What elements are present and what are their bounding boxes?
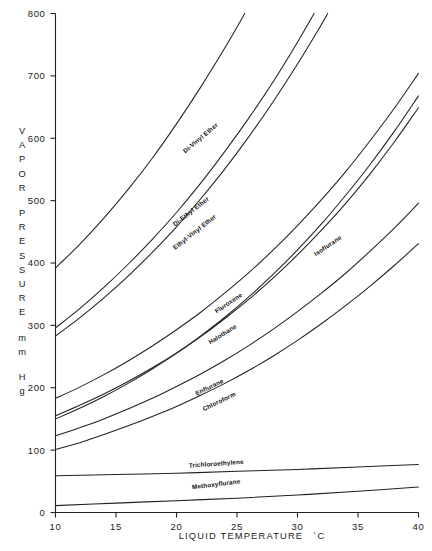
y-axis-title-char: m [18, 333, 26, 343]
y-tick-label: 700 [28, 70, 46, 81]
vapor-pressure-chart: 0100200300400500600700800 10152025303540… [0, 0, 432, 551]
x-tick-label: 25 [231, 521, 243, 532]
x-tick-label: 15 [110, 521, 122, 532]
y-axis-title-char: R [19, 293, 26, 303]
y-axis-title-char: P [19, 208, 25, 218]
y-axis-title-char: m [18, 347, 26, 357]
y-tick-label: 100 [28, 445, 46, 456]
y-tick-label: 600 [28, 133, 46, 144]
x-tick-label: 30 [292, 521, 304, 532]
y-tick-label: 200 [28, 382, 46, 393]
y-tick-label: 0 [40, 507, 46, 518]
x-tick-label: 10 [50, 521, 62, 532]
chart-background [0, 0, 432, 551]
y-axis-title-char: S [19, 265, 25, 275]
y-axis-title-char: R [19, 183, 26, 193]
y-axis-title-char: R [19, 222, 26, 232]
y-axis-title-char: A [19, 140, 26, 150]
y-axis-title-char: P [19, 154, 25, 164]
x-tick-label: 35 [352, 521, 364, 532]
x-axis-title-main: LIQUID TEMPERATURE [179, 531, 304, 541]
y-tick-label: 400 [28, 257, 46, 268]
chart-canvas: 0100200300400500600700800 10152025303540… [0, 0, 432, 551]
y-axis-title-char: U [19, 279, 26, 289]
y-tick-label: 300 [28, 320, 46, 331]
x-tick-label: 20 [171, 521, 183, 532]
degree-symbol: ° [313, 531, 317, 537]
y-tick-label: 800 [28, 8, 46, 19]
y-axis-title-char: H [19, 372, 26, 382]
x-tick-label: 40 [413, 521, 425, 532]
x-axis-title-unit: C [317, 531, 325, 541]
y-axis-title-char: E [19, 236, 25, 246]
y-axis-title-char: O [18, 169, 25, 179]
y-axis-title-char: S [19, 251, 25, 261]
y-tick-label: 500 [28, 195, 46, 206]
y-axis-title-char: V [19, 126, 26, 136]
y-axis-title-char: E [19, 307, 25, 317]
y-axis-title-char: g [19, 386, 24, 396]
